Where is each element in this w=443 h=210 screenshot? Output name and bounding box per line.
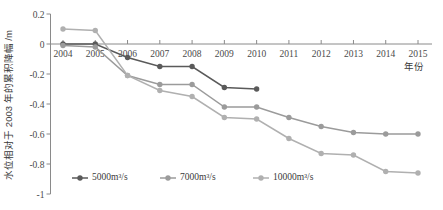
x-tick-label: 2012	[312, 49, 331, 59]
legend-label: 10000m³/s	[273, 172, 314, 182]
data-point	[93, 28, 98, 33]
data-point	[157, 88, 162, 93]
y-tick-label: -0.8	[29, 160, 44, 170]
data-point	[286, 115, 291, 120]
x-tick-label: 2007	[150, 49, 169, 59]
data-point	[60, 26, 65, 31]
data-point	[254, 104, 259, 109]
data-point	[318, 151, 323, 156]
y-tick-label: -1	[37, 190, 45, 200]
x-tick-label: 2015	[409, 49, 428, 59]
line-chart: 水位相对于 2003 年的累积降幅 /m 0.20-0.2-0.4-0.6-0.…	[0, 0, 443, 210]
y-axis-title-group: 水位相对于 2003 年的累积降幅 /m	[3, 30, 14, 180]
data-point	[60, 43, 65, 48]
data-point	[189, 82, 194, 87]
data-point	[189, 94, 194, 99]
x-axis-title: 年份	[404, 61, 424, 72]
data-point	[157, 64, 162, 69]
data-point	[189, 64, 194, 69]
data-point	[254, 116, 259, 121]
y-tick-label: 0	[40, 40, 45, 50]
series-line	[63, 29, 418, 173]
x-tick-label: 2009	[215, 49, 234, 59]
y-tick-label: -0.6	[29, 130, 44, 140]
data-point	[351, 152, 356, 157]
legend-swatch-marker	[258, 175, 263, 180]
data-point	[415, 131, 420, 136]
data-point	[351, 130, 356, 135]
data-point	[383, 169, 388, 174]
x-tick-label: 2004	[54, 49, 73, 59]
data-point	[222, 115, 227, 120]
legend-swatch-marker	[77, 175, 82, 180]
data-point	[254, 86, 259, 91]
data-point	[157, 82, 162, 87]
data-point	[93, 44, 98, 49]
data-point	[222, 85, 227, 90]
y-tick-label: -0.4	[29, 100, 44, 110]
series-group	[60, 26, 420, 175]
data-point	[286, 136, 291, 141]
data-point	[125, 73, 130, 78]
data-point	[222, 104, 227, 109]
x-tick-label: 2014	[376, 49, 395, 59]
chart-container: 水位相对于 2003 年的累积降幅 /m 0.20-0.2-0.4-0.6-0.…	[0, 0, 443, 210]
x-tick-label: 2008	[183, 49, 202, 59]
x-tick-label: 2010	[247, 49, 266, 59]
data-point	[318, 124, 323, 129]
chart-legend: 5000m³/s7000m³/s10000m³/s	[72, 172, 314, 182]
y-tick-label: -0.2	[29, 70, 44, 80]
y-axis-title: 水位相对于 2003 年的累积降幅 /m	[3, 30, 14, 180]
data-point	[383, 131, 388, 136]
legend-label: 7000m³/s	[180, 172, 216, 182]
x-tick-label: 2011	[280, 49, 299, 59]
x-tick-label: 2013	[344, 49, 363, 59]
legend-swatch-marker	[165, 175, 170, 180]
y-axis-ticks: 0.20-0.2-0.4-0.6-0.8-1	[29, 10, 50, 200]
legend-label: 5000m³/s	[92, 172, 128, 182]
y-tick-label: 0.2	[33, 10, 45, 20]
data-point	[415, 170, 420, 175]
data-point	[125, 55, 130, 60]
